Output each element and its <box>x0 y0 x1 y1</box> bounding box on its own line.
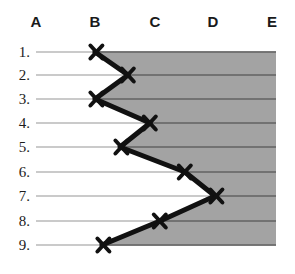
plot-canvas <box>0 0 295 274</box>
profile-chart-figure: A B C D E 1. 2. 3. 4. 5. 6. 7. 8. 9. <box>0 0 295 274</box>
